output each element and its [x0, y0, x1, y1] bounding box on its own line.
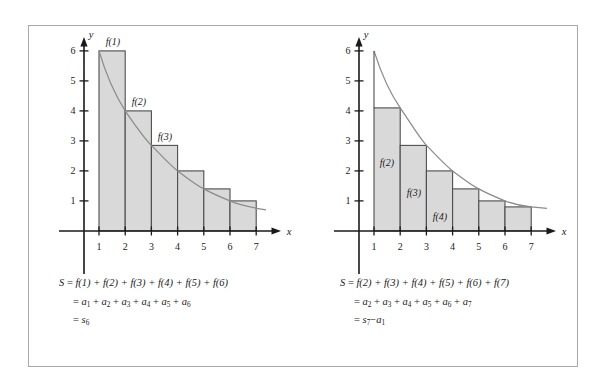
- left-x-axis-label: x: [286, 226, 292, 237]
- left-eq2-equals: =: [73, 296, 79, 307]
- bar-left-1: [99, 51, 125, 231]
- left-y-tick-6: 6: [71, 45, 76, 56]
- right-bar-label-f4: f(4): [433, 211, 448, 223]
- left-eq2-term-1: a: [82, 296, 87, 307]
- left-x-tick-7: 7: [254, 241, 259, 252]
- right-eq1-equals: =: [348, 277, 354, 288]
- left-x-tick-1: 1: [97, 241, 102, 252]
- panels-container: 1 2 3 4 5 6 1: [29, 26, 579, 368]
- right-eq2-sub-1: 2: [368, 301, 372, 309]
- left-eq3-equals: =: [73, 314, 79, 325]
- left-bars: [99, 51, 256, 231]
- right-eq3-sub: 7: [367, 319, 371, 327]
- right-x-tick-3: 3: [424, 241, 429, 252]
- left-eq2-sub-4: 4: [147, 301, 151, 309]
- right-eq2-equals: =: [354, 296, 360, 307]
- left-equation-line-3: = s6: [29, 315, 304, 326]
- left-bar-label-f1: f(1): [106, 36, 121, 48]
- left-y-axis-arrow: [80, 37, 87, 47]
- right-equation-line-1: S = f(2) + f(3) + f(4) + f(5) + f(6) + f…: [304, 278, 579, 289]
- left-y-tick-4: 4: [71, 105, 76, 116]
- right-x-axis-arrow: [547, 227, 557, 234]
- left-x-axis-arrow: [272, 227, 282, 234]
- right-equation-line-2: = a2 + a3 + a4 + a5 + a6 + a7: [304, 297, 579, 308]
- bar-right-4: [453, 189, 479, 231]
- right-eq1-lhs: S: [340, 277, 345, 288]
- right-x-axis-label: x: [561, 226, 567, 237]
- left-equation-line-1: S = f(1) + f(2) + f(3) + f(4) + f(5) + f…: [29, 278, 304, 289]
- right-eq2-plus-2: +: [394, 296, 400, 307]
- right-bars: [374, 108, 531, 231]
- right-equation-block: S = f(2) + f(3) + f(4) + f(5) + f(6) + f…: [304, 278, 579, 334]
- right-plot-area: 1 2 3 4 5 6 1: [304, 26, 579, 276]
- right-bar-label-f2: f(2): [380, 157, 395, 169]
- left-y-tick-2: 2: [71, 165, 76, 176]
- bar-right-5: [479, 201, 505, 231]
- left-y-tick-1: 1: [71, 195, 76, 206]
- left-plot-area: 1 2 3 4 5 6 1: [29, 26, 304, 276]
- left-eq2-sub-5: 5: [167, 301, 171, 309]
- left-eq2-plus-4: +: [153, 296, 159, 307]
- right-y-tick-5: 5: [346, 75, 351, 86]
- right-x-tick-6: 6: [503, 241, 508, 252]
- left-eq1-lhs: S: [59, 277, 64, 288]
- left-bar-label-f3: f(3): [158, 131, 173, 143]
- right-eq2-term-1: a: [363, 296, 368, 307]
- bar-right-1: [374, 108, 400, 231]
- left-bar-label-f2: f(2): [132, 96, 147, 108]
- right-eq2-sub-6: 7: [468, 301, 472, 309]
- left-y-axis-label: y: [88, 29, 94, 40]
- right-panel: 1 2 3 4 5 6 1: [304, 26, 579, 368]
- right-y-tick-2: 2: [346, 165, 351, 176]
- right-x-tick-4: 4: [450, 241, 455, 252]
- right-riemann-chart: 1 2 3 4 5 6 1: [304, 26, 579, 276]
- right-eq2-plus-5: +: [454, 296, 460, 307]
- right-eq3-sub-2: 1: [381, 319, 385, 327]
- left-y-tick-5: 5: [71, 75, 76, 86]
- left-eq2-sub-2: 2: [107, 301, 111, 309]
- left-equation-block: S = f(1) + f(2) + f(3) + f(4) + f(5) + f…: [29, 278, 304, 334]
- right-y-tick-3: 3: [346, 135, 351, 146]
- left-x-tick-4: 4: [175, 241, 180, 252]
- right-y-tick-1: 1: [346, 195, 351, 206]
- left-eq3-sub: 6: [86, 319, 90, 327]
- left-riemann-chart: 1 2 3 4 5 6 1: [29, 26, 304, 276]
- left-eq2-plus-2: +: [113, 296, 119, 307]
- right-eq3-equals: =: [354, 314, 360, 325]
- left-eq1-rhs: f(1) + f(2) + f(3) + f(4) + f(5) + f(6): [75, 277, 228, 288]
- right-eq2-plus-3: +: [414, 296, 420, 307]
- left-x-tick-3: 3: [149, 241, 154, 252]
- right-eq1-rhs: f(2) + f(3) + f(4) + f(5) + f(6) + f(7): [356, 277, 509, 288]
- left-equation-line-2: = a1 + a2 + a3 + a4 + a5 + a6: [29, 297, 304, 308]
- left-x-tick-6: 6: [228, 241, 233, 252]
- left-y-tick-3: 3: [71, 135, 76, 146]
- right-y-tick-6: 6: [346, 45, 351, 56]
- left-eq2-sub-3: 3: [127, 301, 131, 309]
- bar-right-6: [505, 207, 531, 231]
- right-x-tick-5: 5: [476, 241, 481, 252]
- right-y-tick-4: 4: [346, 105, 351, 116]
- left-eq2-sub-6: 6: [187, 301, 191, 309]
- right-eq2-sub-5: 6: [448, 301, 452, 309]
- right-eq2-sub-4: 5: [428, 301, 432, 309]
- left-eq1-equals: =: [67, 277, 73, 288]
- left-x-tick-2: 2: [123, 241, 128, 252]
- right-bar-label-f3: f(3): [407, 187, 422, 199]
- right-y-axis-label: y: [363, 29, 369, 40]
- right-eq2-plus-1: +: [374, 296, 380, 307]
- left-eq2-plus-1: +: [93, 296, 99, 307]
- left-eq2-plus-5: +: [173, 296, 179, 307]
- left-x-tick-5: 5: [201, 241, 206, 252]
- right-eq2-sub-3: 4: [408, 301, 412, 309]
- figure-frame: 1 2 3 4 5 6 1: [28, 25, 578, 367]
- right-eq2-sub-2: 3: [388, 301, 392, 309]
- right-y-axis-arrow: [355, 37, 362, 47]
- right-x-tick-7: 7: [529, 241, 534, 252]
- left-eq2-plus-3: +: [133, 296, 139, 307]
- left-eq2-sub-1: 1: [87, 301, 91, 309]
- right-x-tick-1: 1: [372, 241, 377, 252]
- right-equation-line-3: = s7−a1: [304, 315, 579, 326]
- right-eq2-plus-4: +: [434, 296, 440, 307]
- left-panel: 1 2 3 4 5 6 1: [29, 26, 304, 368]
- right-x-tick-2: 2: [398, 241, 403, 252]
